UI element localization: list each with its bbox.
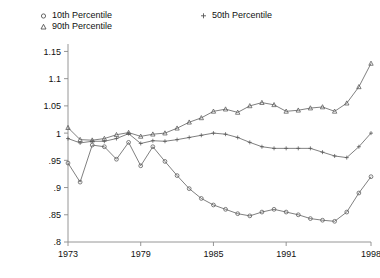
data-point-plus bbox=[333, 154, 337, 158]
data-point-plus bbox=[308, 146, 312, 150]
series-90th-percentile bbox=[66, 61, 373, 142]
data-point-plus bbox=[66, 137, 70, 141]
x-tick-label: 1991 bbox=[276, 249, 296, 259]
y-tick-label: .85 bbox=[48, 210, 61, 220]
y-tick-label: .8 bbox=[53, 237, 61, 247]
data-point-plus bbox=[284, 146, 288, 150]
data-point-plus bbox=[272, 146, 276, 150]
y-tick-label: 1.1 bbox=[48, 74, 61, 84]
series-line bbox=[68, 63, 371, 140]
data-point-plus bbox=[236, 135, 240, 139]
x-tick-label: 1979 bbox=[131, 249, 151, 259]
series-10th-percentile bbox=[66, 140, 373, 223]
series-50th-percentile bbox=[66, 131, 373, 160]
data-point-plus bbox=[260, 145, 264, 149]
series-line bbox=[68, 142, 371, 221]
x-tick-label: 1985 bbox=[203, 249, 223, 259]
data-point-plus bbox=[296, 146, 300, 150]
y-tick-label: .95 bbox=[48, 156, 61, 166]
data-point-plus bbox=[199, 133, 203, 137]
y-tick-label: 1.05 bbox=[43, 101, 61, 111]
chart-container: 10th Percentile 90th Percentile 50th Per… bbox=[0, 0, 380, 278]
y-tick-label: 1 bbox=[56, 129, 61, 139]
x-tick-label: 1973 bbox=[58, 249, 78, 259]
data-point-triangle bbox=[369, 61, 373, 65]
data-point-plus bbox=[187, 135, 191, 139]
x-tick-label: 1998 bbox=[361, 249, 380, 259]
y-tick-label: .9 bbox=[53, 183, 61, 193]
data-point-plus bbox=[321, 150, 325, 154]
data-point-plus bbox=[114, 137, 118, 141]
y-tick-label: 1.15 bbox=[43, 47, 61, 57]
data-point-plus bbox=[224, 132, 228, 136]
data-point-plus bbox=[163, 139, 167, 143]
data-point-plus bbox=[102, 139, 106, 143]
data-point-plus bbox=[175, 138, 179, 142]
data-point-plus bbox=[211, 131, 215, 135]
chart-plot-area: .8.85.9.9511.051.11.15197319791985199119… bbox=[0, 0, 380, 278]
series-line bbox=[68, 133, 371, 158]
data-point-plus bbox=[151, 139, 155, 143]
data-point-plus bbox=[248, 140, 252, 144]
